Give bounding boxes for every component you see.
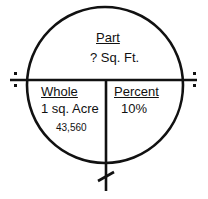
whole-value: 1 sq. Acre xyxy=(41,101,99,116)
percent-heading: Percent xyxy=(114,84,159,99)
divide-dot-right-bottom xyxy=(193,84,196,87)
whole-subvalue: 43,560 xyxy=(56,122,87,134)
percent-value: 10% xyxy=(121,101,147,116)
part-heading: Part xyxy=(96,30,120,45)
divide-dot-left-bottom xyxy=(14,84,17,87)
divide-dot-right-top xyxy=(193,72,196,75)
part-value: ? Sq. Ft. xyxy=(90,50,139,65)
whole-heading: Whole xyxy=(41,84,86,99)
divide-dot-left-top xyxy=(14,72,17,75)
